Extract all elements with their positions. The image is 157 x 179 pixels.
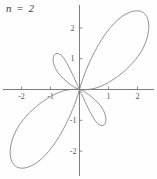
ytick-label-pos1: 1: [71, 54, 75, 63]
petal-large-q3: [10, 89, 79, 168]
axes-group: [3, 5, 154, 176]
ytick-label-neg2: -2: [70, 147, 77, 156]
ytick-label-pos2: 2: [71, 24, 75, 33]
xtick-label-pos1: 1: [107, 92, 111, 101]
xtick-label-neg2: -2: [18, 92, 25, 101]
polar-rose-figure: n = 2 -2 -1 1 2 2 1 -1 -2: [0, 0, 157, 179]
xtick-label-pos2: 2: [136, 92, 140, 101]
petal-large-q1: [80, 11, 149, 90]
ytick-label-neg1: -1: [70, 116, 77, 125]
petal-small-q2: [53, 53, 79, 89]
plot-canvas: -2 -1 1 2 2 1 -1 -2: [0, 0, 157, 179]
petal-small-q4: [80, 90, 106, 126]
